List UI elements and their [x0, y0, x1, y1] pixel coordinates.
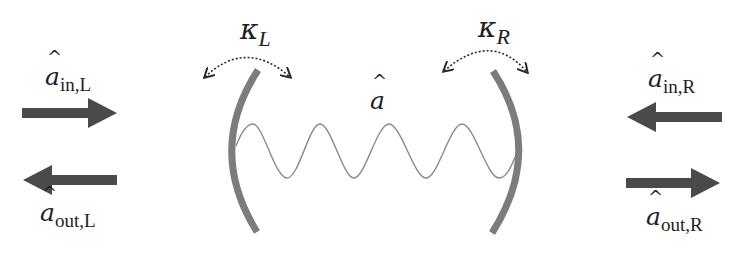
output-arrow-right-icon — [626, 168, 720, 198]
cavity-diagram: κL κR ^a ^ain,L ^aout,L ^ain,R ^aout,R — [0, 0, 741, 256]
output-left-label: ^aout,L — [40, 200, 96, 225]
output-right-label: ^aout,R — [646, 204, 703, 229]
input-left-label: ^ain,L — [45, 64, 91, 89]
left-mirror-icon — [232, 70, 258, 232]
input-right-label: ^ain,R — [648, 66, 695, 91]
kappa-right-label: κR — [478, 14, 510, 42]
diagram-canvas — [0, 0, 741, 256]
input-arrow-right-icon — [627, 102, 722, 132]
cavity-wave-icon — [236, 124, 515, 178]
right-coupling-arrow-icon — [444, 51, 527, 72]
kappa-left-label: κL — [240, 16, 271, 44]
right-mirror-icon — [492, 71, 519, 233]
input-arrow-left-icon — [22, 98, 117, 128]
output-arrow-left-icon — [23, 165, 117, 195]
cavity-mode-label: ^a — [370, 88, 385, 113]
left-coupling-arrow-icon — [205, 58, 290, 78]
